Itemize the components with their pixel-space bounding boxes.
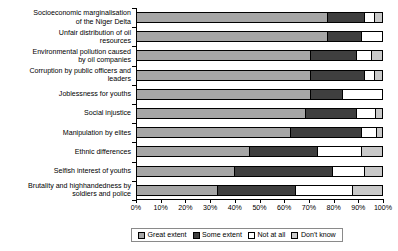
bar-segment-great[interactable] <box>137 109 306 118</box>
category-label: Brutality and highhandedness bysoldiers … <box>0 181 131 200</box>
y-axis-tick <box>132 8 136 9</box>
bar-segment-dk[interactable] <box>365 167 382 176</box>
category-label-line: Joblessness for youths <box>59 90 131 98</box>
bar-segment-dk[interactable] <box>353 186 382 195</box>
bar-segment-some[interactable] <box>311 90 343 99</box>
bar-segment-some[interactable] <box>291 128 362 137</box>
x-axis-tick-label: 30% <box>203 204 217 212</box>
category-label-line: leaders <box>29 75 131 83</box>
x-axis-tick <box>161 200 162 203</box>
bar-segment-dk[interactable] <box>377 128 382 137</box>
bar-segment-notat[interactable] <box>333 167 365 176</box>
x-axis-tick-label: 40% <box>228 204 242 212</box>
category-label-column: Socioeconomic marginalisationof the Nige… <box>0 8 131 200</box>
bar-segment-dk[interactable] <box>376 109 382 118</box>
category-label-line: by oil companies <box>32 56 131 64</box>
category-label-line: Brutality and highhandedness by <box>28 182 131 190</box>
legend-label: Great extent <box>148 231 187 239</box>
x-axis-tick-label: 70% <box>302 204 316 212</box>
x-axis-tick <box>309 200 310 203</box>
bar-segment-notat[interactable] <box>296 186 352 195</box>
bar-segment-great[interactable] <box>137 128 291 137</box>
category-label: Ethnic differences <box>0 142 131 161</box>
bar-segment-some[interactable] <box>311 71 365 80</box>
bar-segment-some[interactable] <box>311 51 358 60</box>
category-label-line: Selfish interest of youths <box>54 167 131 175</box>
x-axis-tick <box>210 200 211 203</box>
bar-segment-dk[interactable] <box>372 51 382 60</box>
legend-swatch-great <box>138 232 145 239</box>
y-axis-tick <box>132 123 136 124</box>
category-label: Unfair distribution of oilresources <box>0 27 131 46</box>
y-axis-tick <box>132 46 136 47</box>
category-label-line: Environmental pollution caused <box>32 48 131 56</box>
bar-row <box>136 46 383 65</box>
category-label-line: Unfair distribution of oil <box>59 29 131 37</box>
bar-segment-notat[interactable] <box>362 128 377 137</box>
stacked-bar[interactable] <box>136 31 383 42</box>
bar-segment-some[interactable] <box>235 167 333 176</box>
bar-segment-notat[interactable] <box>343 90 382 99</box>
x-axis-tick-label: 0% <box>131 204 141 212</box>
bar-segment-notat[interactable] <box>357 109 375 118</box>
category-label: Corruption by public officers andleaders <box>0 66 131 85</box>
bar-row <box>136 85 383 104</box>
legend-item[interactable]: Great extent <box>138 231 187 239</box>
y-axis-tick <box>132 142 136 143</box>
stacked-bar[interactable] <box>136 146 383 157</box>
bar-row <box>136 162 383 181</box>
y-axis-tick <box>132 27 136 28</box>
bar-segment-dk[interactable] <box>375 13 382 22</box>
legend-label: Not at all <box>257 231 285 239</box>
stacked-bar[interactable] <box>136 127 383 138</box>
stacked-bar[interactable] <box>136 70 383 81</box>
bar-segment-some[interactable] <box>328 32 362 41</box>
stacked-bar[interactable] <box>136 166 383 177</box>
bar-segment-some[interactable] <box>328 13 365 22</box>
legend-label: Some extent <box>202 231 242 239</box>
bar-segment-notat[interactable] <box>362 32 382 41</box>
legend-swatch-notat <box>248 232 255 239</box>
bar-segment-dk[interactable] <box>375 71 382 80</box>
chart-legend: Great extentSome extentNot at allDon't k… <box>131 228 343 242</box>
bar-segment-great[interactable] <box>137 32 328 41</box>
category-label: Manipulation by elites <box>0 123 131 142</box>
category-label-line: Corruption by public officers and <box>29 67 131 75</box>
x-axis-tick <box>334 200 335 203</box>
stacked-bar[interactable] <box>136 89 383 100</box>
x-axis-tick-label: 50% <box>252 204 266 212</box>
bar-segment-some[interactable] <box>218 186 296 195</box>
bar-segment-dk[interactable] <box>362 147 382 156</box>
legend-item[interactable]: Not at all <box>248 231 286 239</box>
category-label: Socioeconomic marginalisationof the Nige… <box>0 8 131 27</box>
bar-segment-some[interactable] <box>306 109 357 118</box>
bar-segment-notat[interactable] <box>365 13 375 22</box>
bar-segment-great[interactable] <box>137 13 328 22</box>
bar-row <box>136 8 383 27</box>
bar-segment-great[interactable] <box>137 90 311 99</box>
legend-item[interactable]: Some extent <box>193 231 242 239</box>
legend-swatch-some <box>193 232 200 239</box>
stacked-bar[interactable] <box>136 50 383 61</box>
bar-segment-some[interactable] <box>250 147 319 156</box>
category-label: Environmental pollution causedby oil com… <box>0 46 131 65</box>
x-axis-tick-label: 60% <box>277 204 291 212</box>
legend-swatch-dk <box>291 232 298 239</box>
stacked-bar[interactable] <box>136 12 383 23</box>
bar-segment-great[interactable] <box>137 71 311 80</box>
bar-segment-great[interactable] <box>137 51 311 60</box>
bar-segment-notat[interactable] <box>318 147 362 156</box>
stacked-bar[interactable] <box>136 108 383 119</box>
y-axis-tick <box>132 85 136 86</box>
category-label-line: Socioeconomic marginalisation <box>33 9 131 17</box>
bar-segment-great[interactable] <box>137 186 218 195</box>
x-axis-tick <box>383 200 384 203</box>
bar-segment-notat[interactable] <box>365 71 375 80</box>
stacked-bar[interactable] <box>136 185 383 196</box>
bar-segment-great[interactable] <box>137 167 235 176</box>
bar-segment-notat[interactable] <box>357 51 372 60</box>
bar-segment-great[interactable] <box>137 147 250 156</box>
category-label-line: Social injustice <box>84 109 131 117</box>
legend-item[interactable]: Don't know <box>291 231 335 239</box>
x-axis-tick-label: 20% <box>178 204 192 212</box>
